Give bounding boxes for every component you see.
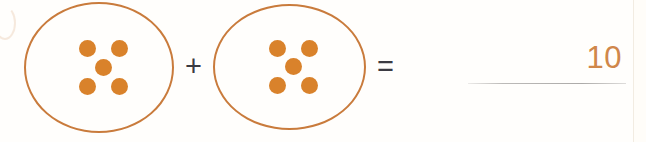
addition-problem-row: + = 10	[0, 0, 646, 142]
answer-blank-line	[468, 83, 626, 84]
counter-dot-icon	[301, 77, 318, 94]
counter-dot-icon	[269, 77, 286, 94]
equals-operator: =	[377, 52, 394, 81]
counter-dot-icon	[111, 78, 128, 95]
counter-dot-icon	[111, 40, 128, 57]
scan-artifact-arc	[0, 6, 16, 40]
plus-operator: +	[185, 52, 202, 81]
counter-dot-icon	[285, 58, 302, 75]
counter-dot-icon	[79, 40, 96, 57]
counter-dot-icon	[301, 40, 318, 57]
first-addend-group	[24, 2, 174, 133]
answer-value[interactable]: 10	[587, 42, 622, 73]
page-margin	[634, 0, 646, 142]
counter-dot-icon	[269, 40, 286, 57]
counter-dot-icon	[79, 78, 96, 95]
counter-dot-icon	[95, 59, 112, 76]
answer-area[interactable]: 10	[466, 42, 626, 92]
page-edge-line	[633, 0, 634, 142]
second-addend-group	[213, 4, 366, 130]
